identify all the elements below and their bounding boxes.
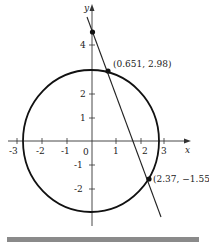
x-tick-label: -3: [9, 146, 18, 156]
y-tick-label: 1: [80, 113, 86, 123]
x-tick-label: 2: [142, 146, 148, 156]
intersection-point-2: [146, 176, 151, 181]
y-tick-label: 2: [80, 89, 86, 99]
y-axis-arrow-icon: [90, 4, 95, 11]
secant-line: [87, 17, 161, 217]
point-label-2: (2.37, −1.55): [153, 174, 209, 184]
x-tick-label: 3: [161, 146, 167, 156]
bottom-rule: [7, 237, 199, 242]
y-axis-label: y: [83, 3, 90, 13]
x-tick-label: 0: [83, 147, 89, 157]
x-tick-label: -1: [61, 146, 70, 156]
x-axis-label: x: [185, 145, 190, 155]
x-tick-label: 1: [113, 146, 119, 156]
diagram-canvas: -3 -2 -1 0 1 2 3 x 4 2 1 -1 -2 y (0.651,…: [0, 0, 209, 243]
y-tick-label: 4: [80, 40, 86, 50]
x-tick-label: -2: [36, 146, 45, 156]
y-intercept-point: [90, 29, 95, 34]
intersection-point-1: [105, 68, 110, 73]
x-axis-arrow-icon: [184, 139, 191, 144]
y-tick-label: -2: [74, 184, 83, 194]
y-tick-label: -1: [74, 160, 83, 170]
point-label-1: (0.651, 2.98): [113, 59, 172, 69]
